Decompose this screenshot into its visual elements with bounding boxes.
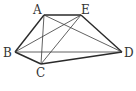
diagonal-ce [41,15,81,64]
edge-dc [41,52,122,64]
edge-ba [15,15,44,52]
label-d: D [124,46,134,60]
diagonals [15,15,122,64]
geometry-diagram: A E B C D [0,0,136,91]
edge-cb [15,52,41,64]
edge-ed [81,15,122,52]
label-c: C [36,66,45,80]
diagonal-be [15,15,81,52]
diagonal-ac [41,15,44,64]
label-a: A [32,3,42,17]
label-b: B [3,46,12,60]
label-e: E [81,3,90,17]
